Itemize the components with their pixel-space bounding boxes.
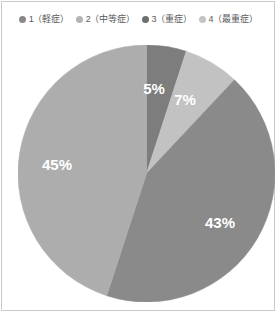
legend-marker-icon-3 xyxy=(142,16,149,23)
legend-item-4[interactable]: 4（最重症） xyxy=(199,15,258,24)
legend-marker-icon-4 xyxy=(199,16,206,23)
pie-slice-label-3: 43% xyxy=(205,214,235,231)
chart-legend: 1（軽症） 2（中等症） 3（重症） 4（最重症） xyxy=(2,11,274,27)
chart-frame: 1（軽症） 2（中等症） 3（重症） 4（最重症） 5%7%43%45% xyxy=(1,1,275,311)
legend-label-3: 3（重症） xyxy=(152,15,192,24)
legend-marker-icon-2 xyxy=(76,16,83,23)
legend-item-2[interactable]: 2（中等症） xyxy=(76,15,135,24)
pie-slice-label-1: 5% xyxy=(143,80,165,97)
legend-item-3[interactable]: 3（重症） xyxy=(142,15,192,24)
pie-slice-label-4: 45% xyxy=(42,156,72,173)
pie-chart: 5%7%43%45% xyxy=(18,45,275,302)
legend-marker-icon-1 xyxy=(19,16,26,23)
pie-slice-label-2: 7% xyxy=(174,91,196,108)
legend-label-1: 1（軽症） xyxy=(29,15,69,24)
pie-chart-svg: 5%7%43%45% xyxy=(18,45,275,302)
legend-label-2: 2（中等症） xyxy=(86,15,135,24)
legend-label-4: 4（最重症） xyxy=(209,15,258,24)
legend-item-1[interactable]: 1（軽症） xyxy=(19,15,69,24)
pie-chart-screenshot: 1（軽症） 2（中等症） 3（重症） 4（最重症） 5%7%43%45% xyxy=(0,0,278,319)
